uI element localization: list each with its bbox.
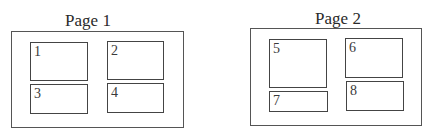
box-label: 4 <box>111 86 118 100</box>
box-label: 8 <box>350 84 357 98</box>
box-label: 5 <box>273 42 280 56</box>
page-1-box-1: 1 <box>30 42 88 81</box>
page-1-box-3: 3 <box>30 84 88 114</box>
page-1-box-4: 4 <box>107 83 164 113</box>
page-1-title: Page 1 <box>65 12 111 29</box>
page-1-box-2: 2 <box>107 41 164 80</box>
page-2-title: Page 2 <box>315 10 361 27</box>
page-2-box-6: 6 <box>345 38 403 78</box>
box-label: 6 <box>349 41 356 55</box>
box-label: 7 <box>273 94 280 108</box>
page-2-box-7: 7 <box>269 91 328 112</box>
page-2-box-5: 5 <box>269 39 327 88</box>
box-label: 1 <box>34 45 41 59</box>
box-label: 3 <box>34 87 41 101</box>
box-label: 2 <box>111 44 118 58</box>
page-2-box-8: 8 <box>346 81 404 111</box>
